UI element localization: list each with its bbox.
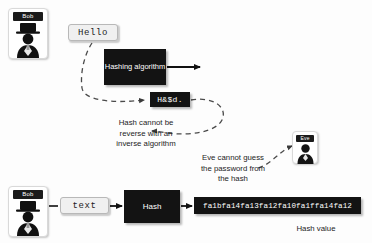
input-box-text: text	[60, 197, 109, 214]
person-name-label: Bob	[13, 12, 43, 21]
hash-function-box: Hash	[124, 190, 180, 223]
person-card-eve: Eve	[292, 131, 318, 164]
person-name-label: Eve	[296, 135, 315, 142]
caption-hash-irreversible: Hash cannot be reverse with an inverse a…	[90, 118, 202, 150]
hash-output-box: H&$d.	[150, 92, 190, 107]
hashing-algorithm-box: Hashing algorithm	[104, 49, 166, 85]
person-with-tophat-icon	[9, 21, 47, 58]
caption-eve-cannot-guess: Eve cannot guess the password from the h…	[174, 153, 292, 185]
person-name-label: Bob	[13, 190, 43, 199]
person-card-bob-bottom: Bob	[8, 186, 48, 237]
input-box-hello: Hello	[68, 24, 118, 41]
caption-hash-value: Hash value	[276, 224, 356, 235]
person-with-tophat-icon	[9, 199, 47, 236]
hash-value-box: fa1bfa14fa13fa12fa10fa1ffa14fa12	[194, 197, 361, 214]
diagram-canvas: Bob Hello Hashing algorithm H&$d. Hash c…	[0, 0, 372, 243]
person-icon	[293, 142, 317, 164]
person-card-bob-top: Bob	[8, 8, 48, 59]
